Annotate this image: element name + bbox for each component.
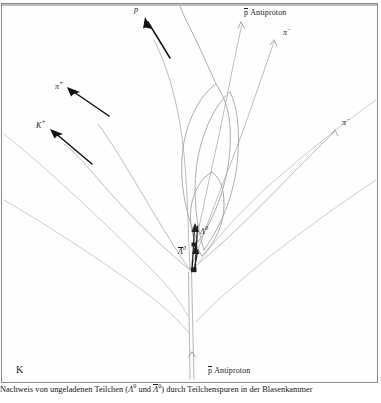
label-antiproton-bottom: p Antiproton (208, 367, 250, 375)
figure-root: p p Antiproton π− π+ K+ π− Λ0 Λ0 p Antip… (0, 0, 381, 403)
label-kaon-plus-left: K+ (36, 122, 46, 130)
bubble-chamber-frame: p p Antiproton π− π+ K+ π− Λ0 Λ0 p Antip… (1, 3, 378, 383)
primary-vertex-tracks (64, 24, 334, 270)
label-proton-top: p (134, 6, 138, 14)
label-lambda-zero: Λ0 (200, 228, 208, 236)
label-lambda-bar-zero: Λ0 (178, 248, 186, 256)
label-pion-minus-right: π− (342, 119, 350, 127)
corner-mark-k: K (16, 364, 23, 375)
beam-track-antiproton (189, 272, 195, 379)
figure-caption: Nachweis von ungeladenen Teilchen (Λ0 un… (0, 385, 381, 394)
label-pion-minus-upper: π− (283, 29, 291, 37)
label-antiproton-top: p Antiproton (244, 9, 286, 17)
particle-tracks (2, 4, 377, 382)
label-pion-plus-left: π+ (55, 83, 63, 91)
track-direction-arrow-icon (238, 22, 338, 136)
annotation-arrowhead-icon (50, 17, 152, 139)
